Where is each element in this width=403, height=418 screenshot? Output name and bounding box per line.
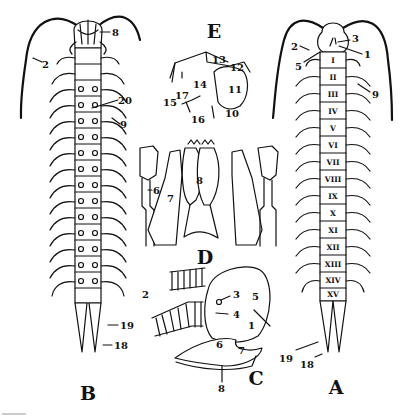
callout-9-a: 9 (372, 89, 379, 100)
panel-label-a: A (328, 376, 344, 398)
segment-i: I (331, 56, 335, 65)
panel-label-e: E (207, 20, 221, 42)
callout-19-b: 19 (120, 320, 134, 331)
callout-2-b: 2 (42, 59, 49, 70)
segment-iii: III (328, 90, 339, 99)
callout-13-e: 13 (212, 54, 226, 65)
segment-xii: XII (327, 243, 340, 252)
segment-x: X (330, 209, 336, 218)
callout-6-d: 6 (153, 185, 160, 196)
segment-xiii: XIII (325, 260, 342, 269)
callout-20-b: 20 (118, 95, 132, 106)
callout-18-a: 18 (300, 359, 314, 370)
segment-viii: VIII (324, 175, 342, 184)
callout-4-c: 4 (233, 309, 240, 320)
callout-2-a: 2 (291, 41, 298, 52)
panel-d-drawing (140, 140, 278, 246)
callout-8-b: 8 (112, 27, 119, 38)
callout-2-c: 2 (142, 289, 149, 300)
callout-5-c: 5 (252, 291, 259, 302)
callout-14-e: 14 (193, 79, 207, 90)
callout-10-e: 10 (225, 108, 239, 119)
segment-v: V (329, 124, 336, 133)
segment-ii: II (329, 73, 337, 82)
antenna-left-b (21, 19, 78, 118)
callout-16-e: 16 (191, 114, 205, 125)
callout-17-e: 17 (175, 90, 189, 101)
antenna-right-a (343, 21, 392, 120)
segment-xv: XV (327, 290, 339, 299)
callout-11-e: 11 (228, 84, 242, 95)
callout-19-a: 19 (279, 353, 293, 364)
callout-7-c: 7 (238, 345, 245, 356)
segment-xi: XI (328, 226, 338, 235)
segment-vi: VI (327, 141, 338, 150)
head-capsule-c (205, 267, 270, 342)
panel-label-c: C (248, 367, 263, 389)
segment-xiv: XIV (325, 276, 340, 285)
callout-1-c: 1 (248, 320, 255, 331)
terminal-leg-left-b (75, 303, 87, 352)
centipede-figure: 2 8 9 18 19 20 B E 10 11 12 13 14 15 16 … (0, 0, 403, 418)
antenna-right-b (98, 17, 140, 40)
callout-7-d: 7 (167, 193, 174, 204)
panel-e-labels: E 10 11 12 13 14 15 16 17 (163, 20, 244, 125)
panel-label-b: B (80, 382, 96, 404)
panel-label-d: D (197, 246, 213, 268)
callout-6-c: 6 (216, 339, 223, 350)
callout-3-a: 3 (352, 33, 359, 44)
callout-9-b: 9 (120, 119, 127, 130)
segment-ix: IX (328, 192, 338, 201)
callout-8-c: 8 (218, 383, 225, 394)
panel-b-drawing (21, 17, 140, 352)
callout-8-d: 8 (196, 175, 203, 186)
callout-12-e: 12 (230, 62, 244, 73)
panel-a-drawing (273, 21, 392, 357)
callout-18-b: 18 (114, 340, 128, 351)
callout-3-c: 3 (233, 289, 240, 300)
segment-vii: VII (326, 158, 340, 167)
terminal-leg-right-b (89, 303, 101, 352)
callout-5-a: 5 (295, 61, 302, 72)
segment-iv: IV (328, 107, 338, 116)
callout-1-a: 1 (364, 49, 371, 60)
